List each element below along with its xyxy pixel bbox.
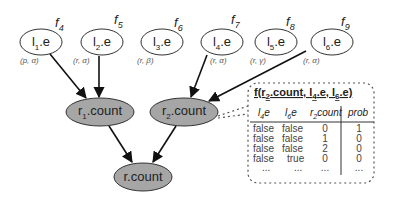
evidence-node-l3e: l3.e f6 (r, β): [137, 15, 183, 65]
domain-label: (r, β): [137, 56, 154, 65]
header-prob: prob: [347, 107, 368, 118]
svg-text:f4: f4: [55, 15, 64, 33]
evidence-node-l4e: l4.e f7 (r, α): [201, 12, 243, 65]
edge-r1count-rcount: [109, 126, 132, 162]
evidence-node-l1e: l1.e f4 (p, α): [20, 15, 64, 65]
domain-label: (p, α): [20, 56, 39, 65]
svg-text:...: ...: [262, 162, 270, 173]
domain-label: (r, α): [303, 56, 320, 65]
root-node-rcount: r.count: [114, 163, 172, 191]
svg-text:f7: f7: [231, 12, 241, 30]
aggregate-node-r1count: r1.count: [66, 98, 134, 126]
svg-text:f9: f9: [341, 14, 350, 32]
svg-text:f5: f5: [114, 12, 124, 30]
svg-text:...: ...: [294, 162, 302, 173]
svg-text:...: ...: [321, 162, 329, 173]
evidence-node-l6e: l6.e f9 (r, α): [303, 14, 353, 65]
evidence-node-l5e: l5.e f8 (r, γ): [250, 14, 297, 65]
domain-label: (r, α): [73, 56, 90, 65]
factor-table: f(r2.count, l4.e, l6.e) l4e l6e r2count …: [248, 83, 374, 183]
svg-text:f6: f6: [174, 15, 183, 33]
domain-label: (r, γ): [250, 56, 266, 65]
svg-text:...: ...: [355, 162, 363, 173]
factor-connector: [218, 106, 248, 118]
svg-text:f8: f8: [286, 14, 295, 32]
domain-label: (r, α): [210, 56, 227, 65]
svg-text:r.count: r.count: [123, 169, 162, 184]
aggregate-node-r2count: r2.count: [150, 98, 218, 126]
factor-graph-diagram: l1.e f4 (p, α) l2.e f5 (r, α) l3.e f6 (r…: [0, 0, 396, 201]
edge-r2count-rcount: [153, 126, 176, 162]
edge-l4e-r2count: [191, 55, 207, 97]
